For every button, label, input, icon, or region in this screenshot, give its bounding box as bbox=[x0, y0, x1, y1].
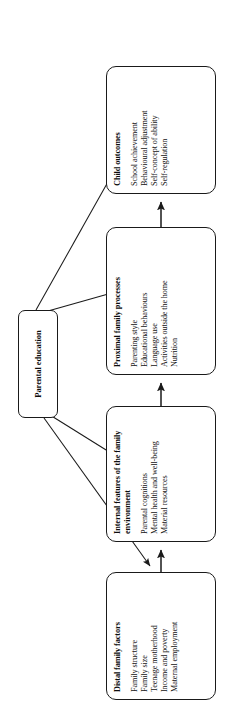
list-item: Self-concept of ability bbox=[150, 74, 160, 186]
list-item: Family structure bbox=[130, 580, 140, 692]
list-item: Parenting style bbox=[130, 235, 140, 367]
list-item: Income and poverty bbox=[160, 580, 170, 692]
node-internal-features-items: Parental cognitions Mental health and we… bbox=[140, 414, 171, 534]
list-item: Activities outside the home bbox=[160, 235, 170, 367]
list-item: Mental health and well-being bbox=[150, 414, 160, 534]
node-child-outcomes-items: School achievement Behavioural adjustmen… bbox=[130, 74, 171, 186]
list-item: Parental cognitions bbox=[140, 414, 150, 534]
node-internal-features: Internal features of the family environm… bbox=[106, 406, 216, 542]
list-item: Teenage motherhood bbox=[150, 580, 160, 692]
list-item: Material resources bbox=[160, 414, 170, 534]
node-proximal-family-processes-title: Proximal family processes bbox=[113, 235, 123, 367]
node-proximal-family-processes-items: Parenting style Educational behaviours L… bbox=[130, 235, 181, 367]
node-child-outcomes: Child outcomes School achievement Behavi… bbox=[106, 66, 216, 194]
list-item: Self-regulation bbox=[160, 74, 170, 186]
diagram-stage: Parental education Distal family factors… bbox=[0, 0, 226, 708]
list-item: Educational behaviours bbox=[140, 235, 150, 367]
node-parental-education: Parental education bbox=[18, 310, 58, 418]
list-item: Family size bbox=[140, 580, 150, 692]
node-proximal-family-processes: Proximal family processes Parenting styl… bbox=[106, 227, 216, 375]
list-item: School achievement bbox=[130, 74, 140, 186]
list-item: Nutrition bbox=[170, 235, 180, 367]
list-item: Language use bbox=[150, 235, 160, 367]
node-distal-family-factors-items: Family structure Family size Teenage mot… bbox=[130, 580, 181, 692]
node-distal-family-factors-title: Distal family factors bbox=[113, 580, 123, 692]
node-internal-features-title: Internal features of the family environm… bbox=[113, 414, 133, 534]
figure-canvas: Parental education Distal family factors… bbox=[0, 0, 226, 708]
node-child-outcomes-title: Child outcomes bbox=[113, 74, 123, 186]
list-item: Behavioural adjustment bbox=[140, 74, 150, 186]
node-distal-family-factors: Distal family factors Family structure F… bbox=[106, 572, 216, 700]
node-parental-education-title: Parental education bbox=[33, 330, 43, 398]
list-item: Maternal employment bbox=[170, 580, 180, 692]
